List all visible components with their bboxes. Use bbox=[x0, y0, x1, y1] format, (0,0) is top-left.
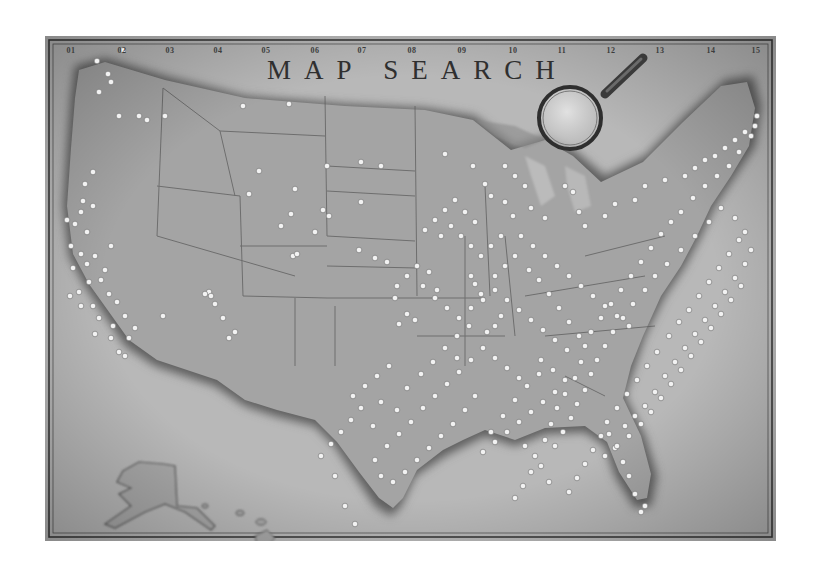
location-pin[interactable] bbox=[90, 169, 96, 175]
location-pin[interactable] bbox=[430, 359, 436, 365]
location-pin[interactable] bbox=[602, 303, 608, 309]
location-pin[interactable] bbox=[444, 305, 450, 311]
location-pin[interactable] bbox=[208, 293, 214, 299]
location-pin[interactable] bbox=[612, 201, 618, 207]
location-pin[interactable] bbox=[512, 495, 518, 501]
location-pin[interactable] bbox=[542, 437, 548, 443]
location-pin[interactable] bbox=[510, 213, 516, 219]
location-pin[interactable] bbox=[500, 413, 506, 419]
location-pin[interactable] bbox=[456, 315, 462, 321]
location-pin[interactable] bbox=[126, 335, 132, 341]
location-pin[interactable] bbox=[528, 205, 534, 211]
location-pin[interactable] bbox=[638, 421, 644, 427]
location-pin[interactable] bbox=[652, 273, 658, 279]
location-pin[interactable] bbox=[642, 503, 648, 509]
location-pin[interactable] bbox=[136, 113, 142, 119]
location-pin[interactable] bbox=[542, 215, 548, 221]
location-pin[interactable] bbox=[578, 283, 584, 289]
location-pin[interactable] bbox=[256, 168, 262, 174]
location-pin[interactable] bbox=[742, 261, 748, 267]
location-pin[interactable] bbox=[240, 103, 246, 109]
location-pin[interactable] bbox=[84, 229, 90, 235]
location-pin[interactable] bbox=[582, 387, 588, 393]
location-pin[interactable] bbox=[702, 183, 708, 189]
location-pin[interactable] bbox=[732, 275, 738, 281]
location-pin[interactable] bbox=[578, 359, 584, 365]
location-pin[interactable] bbox=[452, 197, 458, 203]
location-pin[interactable] bbox=[622, 423, 628, 429]
location-pin[interactable] bbox=[374, 373, 380, 379]
location-pin[interactable] bbox=[742, 129, 748, 135]
location-pin[interactable] bbox=[352, 521, 358, 527]
location-pin[interactable] bbox=[690, 195, 696, 201]
location-pin[interactable] bbox=[522, 443, 528, 449]
location-pin[interactable] bbox=[492, 355, 498, 361]
location-pin[interactable] bbox=[618, 287, 624, 293]
location-pin[interactable] bbox=[108, 335, 114, 341]
location-pin[interactable] bbox=[626, 433, 632, 439]
location-pin[interactable] bbox=[648, 245, 654, 251]
location-pin[interactable] bbox=[698, 339, 704, 345]
location-pin[interactable] bbox=[662, 373, 668, 379]
location-pin[interactable] bbox=[220, 315, 226, 321]
location-pin[interactable] bbox=[632, 491, 638, 497]
location-pin[interactable] bbox=[504, 429, 510, 435]
location-pin[interactable] bbox=[718, 205, 724, 211]
location-pin[interactable] bbox=[70, 265, 76, 271]
location-pin[interactable] bbox=[604, 419, 610, 425]
location-pin[interactable] bbox=[110, 323, 116, 329]
location-pin[interactable] bbox=[588, 371, 594, 377]
location-pin[interactable] bbox=[468, 357, 474, 363]
location-pin[interactable] bbox=[498, 313, 504, 319]
location-pin[interactable] bbox=[590, 293, 596, 299]
location-pin[interactable] bbox=[67, 293, 73, 299]
location-pin[interactable] bbox=[678, 209, 684, 215]
location-pin[interactable] bbox=[480, 297, 486, 303]
location-pin[interactable] bbox=[696, 293, 702, 299]
location-pin[interactable] bbox=[572, 375, 578, 381]
location-pin[interactable] bbox=[560, 429, 566, 435]
location-pin[interactable] bbox=[626, 473, 632, 479]
location-pin[interactable] bbox=[472, 281, 478, 287]
location-pin[interactable] bbox=[528, 469, 534, 475]
location-pin[interactable] bbox=[86, 279, 92, 285]
location-pin[interactable] bbox=[706, 279, 712, 285]
location-pin[interactable] bbox=[82, 181, 88, 187]
location-pin[interactable] bbox=[692, 233, 698, 239]
location-pin[interactable] bbox=[90, 203, 96, 209]
location-pin[interactable] bbox=[732, 215, 738, 221]
location-pin[interactable] bbox=[566, 319, 572, 325]
location-pin[interactable] bbox=[378, 399, 384, 405]
location-pin[interactable] bbox=[122, 353, 128, 359]
location-pin[interactable] bbox=[462, 407, 468, 413]
location-pin[interactable] bbox=[516, 375, 522, 381]
location-pin[interactable] bbox=[722, 145, 728, 151]
location-pin[interactable] bbox=[552, 337, 558, 343]
location-pin[interactable] bbox=[642, 287, 648, 293]
location-pin[interactable] bbox=[358, 199, 364, 205]
location-pin[interactable] bbox=[528, 409, 534, 415]
location-pin[interactable] bbox=[350, 393, 356, 399]
location-pin[interactable] bbox=[92, 331, 98, 337]
location-pin[interactable] bbox=[752, 123, 758, 129]
location-pin[interactable] bbox=[144, 117, 150, 123]
location-pin[interactable] bbox=[414, 263, 420, 269]
location-pin[interactable] bbox=[564, 347, 570, 353]
location-pin[interactable] bbox=[394, 283, 400, 289]
location-pin[interactable] bbox=[426, 445, 432, 451]
location-pin[interactable] bbox=[320, 207, 326, 213]
location-pin[interactable] bbox=[610, 329, 616, 335]
location-pin[interactable] bbox=[614, 405, 620, 411]
location-pin[interactable] bbox=[574, 401, 580, 407]
location-pin[interactable] bbox=[420, 283, 426, 289]
location-pin[interactable] bbox=[96, 89, 102, 95]
location-pin[interactable] bbox=[392, 295, 398, 301]
location-pin[interactable] bbox=[312, 229, 318, 235]
location-pin[interactable] bbox=[426, 269, 432, 275]
location-pin[interactable] bbox=[68, 243, 74, 249]
location-pin[interactable] bbox=[668, 381, 674, 387]
location-pin[interactable] bbox=[570, 189, 576, 195]
location-pin[interactable] bbox=[502, 263, 508, 269]
location-pin[interactable] bbox=[454, 333, 460, 339]
location-pin[interactable] bbox=[80, 198, 86, 204]
